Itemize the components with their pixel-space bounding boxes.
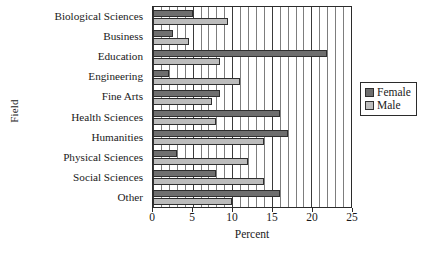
x-tick-label: 10 [226,211,238,223]
bar-female [153,150,177,157]
bar-female [153,110,280,117]
bar-group [153,107,351,127]
category-label: Fine Arts [14,87,148,107]
x-tick-label: 0 [149,211,155,223]
legend-label: Female [377,87,411,99]
bar-group [153,47,351,67]
category-label: Physical Sciences [14,147,148,167]
bar-female [153,50,327,57]
category-label: Social Sciences [14,168,148,188]
bar-male [153,38,189,45]
bar-group [153,147,351,167]
x-tick-label: 15 [266,211,278,223]
bar-female [153,70,169,77]
bar-group [153,127,351,147]
category-label: Health Sciences [14,107,148,127]
bar-group [153,167,351,187]
chart-container: Field Biological SciencesBusinessEducati… [0,0,431,254]
x-tick-label: 25 [346,211,358,223]
chart-legend: FemaleMale [360,82,417,116]
bar-female [153,130,288,137]
x-tick-label: 5 [189,211,195,223]
legend-swatch-male [365,101,374,110]
x-axis-title: Percent [152,228,352,240]
x-tick-label: 20 [306,211,318,223]
legend-label: Male [377,100,401,112]
legend-item: Male [365,100,411,112]
bar-group [153,27,351,47]
bar-male [153,58,220,65]
legend-item: Female [365,87,411,99]
bar-male [153,118,216,125]
bar-male [153,198,232,205]
bar-group [153,187,351,207]
bar-male [153,138,264,145]
bar-male [153,98,212,105]
bar-male [153,78,240,85]
bar-male [153,18,228,25]
bar-group [153,67,351,87]
bar-group [153,7,351,27]
bar-male [153,158,248,165]
category-label: Biological Sciences [14,6,148,26]
category-label: Other [14,188,148,208]
plot-area [152,6,352,208]
y-axis-category-labels: Biological SciencesBusinessEducationEngi… [14,6,148,208]
legend-swatch-female [365,88,374,97]
bar-group [153,87,351,107]
x-axis-tick-labels: 0510152025 [152,211,352,227]
bar-female [153,190,280,197]
bar-female [153,170,216,177]
bar-female [153,90,220,97]
category-label: Humanities [14,127,148,147]
category-label: Education [14,46,148,66]
bar-female [153,10,193,17]
bar-male [153,178,264,185]
category-label: Engineering [14,67,148,87]
bar-rows [153,7,351,207]
category-label: Business [14,26,148,46]
bar-female [153,30,173,37]
